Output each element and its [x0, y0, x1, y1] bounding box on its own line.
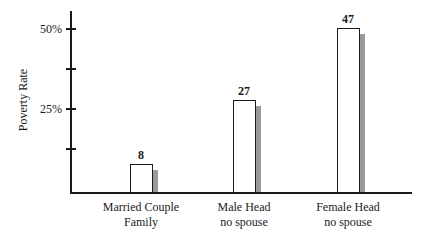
value-label-married: 8 — [126, 148, 156, 163]
category-label-male: Male Head no spouse — [189, 200, 299, 230]
y-axis — [70, 11, 72, 193]
y-tick-37-5 — [66, 68, 76, 70]
y-axis-label: Poverty Rate — [16, 69, 31, 131]
value-label-male: 27 — [229, 84, 259, 99]
y-tick-25 — [66, 108, 76, 110]
category-label-married: Married Couple Family — [86, 200, 196, 230]
x-axis — [70, 192, 412, 194]
y-tick-50 — [66, 28, 76, 30]
bar-married-couple — [130, 164, 153, 192]
category-line-1: Male Head — [189, 200, 299, 215]
category-line-2: no spouse — [189, 215, 299, 230]
value-label-female: 47 — [333, 12, 363, 27]
category-line-1: Female Head — [293, 200, 403, 215]
y-tick-label-50: 50% — [40, 23, 62, 35]
poverty-rate-bar-chart: 50% 25% Poverty Rate 8 27 47 Married Cou… — [0, 0, 443, 242]
bar-female-head — [337, 28, 360, 192]
y-tick-12-5 — [66, 148, 76, 150]
category-line-2: no spouse — [293, 215, 403, 230]
category-label-female: Female Head no spouse — [293, 200, 403, 230]
category-line-2: Family — [86, 215, 196, 230]
bar-male-head — [233, 100, 256, 192]
y-tick-label-25: 25% — [40, 103, 62, 115]
category-line-1: Married Couple — [86, 200, 196, 215]
